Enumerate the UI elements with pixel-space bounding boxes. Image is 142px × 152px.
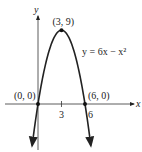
- x-tick-label: 6: [88, 109, 93, 120]
- key-point-label: (6, 0): [88, 90, 110, 102]
- y-axis-label: y: [33, 4, 39, 15]
- equation-label: y = 6x − x²: [82, 46, 126, 57]
- key-point: [36, 102, 40, 106]
- key-point: [59, 28, 63, 32]
- x-axis-label: x: [135, 98, 141, 109]
- key-point-label: (3, 9): [52, 16, 74, 28]
- parabola-chart: x y 36 (0, 0)(3, 9)(6, 0) y = 6x − x²: [0, 0, 142, 152]
- key-point-label: (0, 0): [14, 90, 36, 102]
- key-point: [83, 102, 87, 106]
- x-tick-label: 3: [59, 109, 64, 120]
